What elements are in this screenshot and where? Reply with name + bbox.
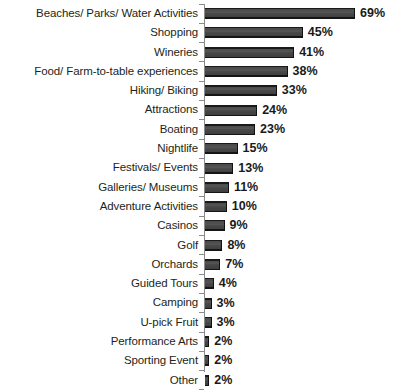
bar: [205, 124, 255, 135]
axis-tick: [199, 81, 204, 82]
bar-and-value: 23%: [205, 120, 285, 139]
category-label: Galleries/ Museums: [0, 178, 198, 197]
axis-tick: [199, 351, 204, 352]
axis-tick: [199, 42, 204, 43]
bar-value-label: 11%: [234, 182, 258, 193]
category-label: Camping: [0, 293, 198, 312]
bar: [205, 220, 225, 231]
bar-row: Beaches/ Parks/ Water Activities69%: [0, 4, 401, 23]
bar: [205, 298, 212, 309]
bar: [205, 163, 233, 174]
bar-row: Performance Arts2%: [0, 332, 401, 351]
bar: [205, 66, 288, 77]
axis-tick: [199, 177, 204, 178]
bar-and-value: 7%: [205, 255, 243, 274]
bar: [205, 240, 222, 251]
category-label: Golf: [0, 236, 198, 255]
bar-row: Nightlife15%: [0, 139, 401, 158]
category-label: Boating: [0, 120, 198, 139]
bar-row: Adventure Activities10%: [0, 197, 401, 216]
category-label: Nightlife: [0, 139, 198, 158]
bar-value-label: 10%: [232, 201, 257, 212]
bar-and-value: 24%: [205, 100, 287, 119]
bar-and-value: 2%: [205, 371, 232, 390]
bar-row: U-pick Fruit3%: [0, 313, 401, 332]
axis-tick: [199, 332, 204, 333]
axis-tick: [199, 293, 204, 294]
bar-row: Galleries/ Museums11%: [0, 178, 401, 197]
bar-value-label: 3%: [217, 298, 235, 309]
axis-tick: [199, 254, 204, 255]
bar: [205, 355, 209, 366]
bar-value-label: 8%: [227, 240, 245, 251]
bar-value-label: 2%: [214, 355, 232, 366]
bar-row: Sporting Event2%: [0, 351, 401, 370]
bar: [205, 143, 238, 154]
bar-row: Attractions24%: [0, 100, 401, 119]
category-label: Performance Arts: [0, 332, 198, 351]
bar: [205, 85, 277, 96]
axis-tick: [199, 235, 204, 236]
bar-row: Food/ Farm-to-table experiences38%: [0, 62, 401, 81]
bar-value-label: 38%: [293, 66, 318, 77]
bar-value-label: 15%: [243, 143, 268, 154]
bar-and-value: 15%: [205, 139, 268, 158]
bar-row: Orchards7%: [0, 255, 401, 274]
bar-row: Guided Tours4%: [0, 274, 401, 293]
bar-and-value: 69%: [205, 4, 385, 23]
bar-row: Wineries41%: [0, 43, 401, 62]
bar: [205, 336, 209, 347]
bar-value-label: 2%: [214, 375, 232, 386]
bar: [205, 317, 212, 328]
category-label: Hiking/ Biking: [0, 81, 198, 100]
category-label: Shopping: [0, 23, 198, 42]
bar-value-label: 69%: [360, 8, 385, 19]
bar-and-value: 45%: [205, 23, 333, 42]
bar: [205, 182, 229, 193]
axis-tick: [199, 100, 204, 101]
axis-tick: [199, 61, 204, 62]
bar-value-label: 3%: [217, 317, 235, 328]
bar: [205, 201, 227, 212]
axis-tick: [199, 23, 204, 24]
category-label: Food/ Farm-to-table experiences: [0, 62, 198, 81]
axis-tick: [199, 4, 204, 5]
bar-and-value: 11%: [205, 178, 258, 197]
bar-and-value: 3%: [205, 293, 235, 312]
bar-rows: Beaches/ Parks/ Water Activities69%Shopp…: [0, 4, 401, 390]
bar-row: Casinos9%: [0, 216, 401, 235]
category-label: Attractions: [0, 100, 198, 119]
bar-value-label: 24%: [262, 105, 287, 116]
axis-tick: [199, 139, 204, 140]
bar-and-value: 9%: [205, 216, 248, 235]
axis-tick: [199, 216, 204, 217]
bar-value-label: 7%: [225, 259, 243, 270]
bar-row: Camping3%: [0, 293, 401, 312]
bar-row: Boating23%: [0, 120, 401, 139]
category-label: Wineries: [0, 43, 198, 62]
bar: [205, 259, 220, 270]
category-label: Sporting Event: [0, 351, 198, 370]
bar-and-value: 13%: [205, 158, 263, 177]
bar-row: Festivals/ Events13%: [0, 158, 401, 177]
bar-row: Shopping45%: [0, 23, 401, 42]
category-label: Orchards: [0, 255, 198, 274]
bar-and-value: 8%: [205, 236, 245, 255]
bar-row: Hiking/ Biking33%: [0, 81, 401, 100]
bar-value-label: 33%: [282, 85, 307, 96]
bar-and-value: 4%: [205, 274, 237, 293]
bar-and-value: 2%: [205, 351, 232, 370]
bar-value-label: 45%: [308, 27, 333, 38]
bar-value-label: 41%: [299, 47, 324, 58]
category-label: Adventure Activities: [0, 197, 198, 216]
bar-row: Golf8%: [0, 236, 401, 255]
bar-and-value: 41%: [205, 43, 324, 62]
category-label: Beaches/ Parks/ Water Activities: [0, 4, 198, 23]
category-label: Other: [0, 371, 198, 390]
category-label: Festivals/ Events: [0, 158, 198, 177]
category-label: U-pick Fruit: [0, 313, 198, 332]
category-label: Guided Tours: [0, 274, 198, 293]
bar-value-label: 2%: [214, 336, 232, 347]
axis-tick: [199, 274, 204, 275]
bar-and-value: 33%: [205, 81, 307, 100]
